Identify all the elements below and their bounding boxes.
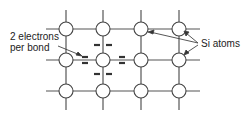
si-atom	[59, 84, 73, 98]
si-atom	[59, 53, 73, 67]
electrons-label-line2: per bond	[10, 42, 49, 53]
arrow-head-icon	[148, 30, 154, 34]
electrons-label-line1: 2 electrons	[10, 31, 59, 42]
si-atom	[134, 84, 148, 98]
si-atom	[96, 22, 110, 36]
si-atom	[172, 84, 186, 98]
si-atom	[96, 84, 110, 98]
si-atom	[96, 53, 110, 67]
arrow-head-icon	[76, 52, 82, 56]
si-atom	[59, 22, 73, 36]
si-atom	[134, 53, 148, 67]
si-atoms-label: Si atoms	[201, 38, 240, 49]
si-atom	[134, 22, 148, 36]
si-atom	[172, 22, 186, 36]
lattice-diagram	[0, 0, 246, 115]
arrow-head-icon	[184, 50, 189, 55]
